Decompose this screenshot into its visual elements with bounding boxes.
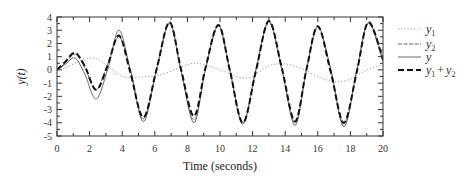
plot-frame <box>57 17 383 136</box>
y-tick-label: 0 <box>47 64 52 75</box>
y-tick-label: -1 <box>44 78 52 89</box>
chart: 02468101214161820 43210-1-2-3-4-5 Time (… <box>0 0 471 181</box>
series-y2 <box>57 22 383 124</box>
x-axis-title: Time (seconds) <box>183 159 257 173</box>
legend-label: y <box>425 50 432 64</box>
x-tick-label: 12 <box>248 143 258 154</box>
series-y1-plus-y2 <box>57 21 383 123</box>
legend-item: y1+y2 <box>398 63 455 79</box>
x-tick-label: 18 <box>345 143 355 154</box>
y-tick-label: -5 <box>44 131 52 142</box>
x-tick-label: 8 <box>185 143 190 154</box>
legend: y1y2yy1+y2 <box>398 22 455 79</box>
y-tick-label: -3 <box>44 104 52 115</box>
y-tick-labels: 43210-1-2-3-4-5 <box>44 12 52 142</box>
y-tick-label: 2 <box>47 38 52 49</box>
legend-item: y1 <box>398 22 435 38</box>
x-tick-labels: 02468101214161820 <box>55 143 389 154</box>
series-layer <box>57 21 383 127</box>
x-tick-label: 4 <box>120 143 125 154</box>
y-axis-title: y(t) <box>14 68 28 86</box>
legend-label: y1+y2 <box>425 63 455 79</box>
x-tick-label: 16 <box>313 143 323 154</box>
series-y <box>57 21 383 127</box>
y-tick-label: -2 <box>44 91 52 102</box>
legend-label: y1 <box>425 22 435 38</box>
x-tick-label: 10 <box>215 143 225 154</box>
x-tick-label: 20 <box>378 143 388 154</box>
y-tick-label: -4 <box>44 117 52 128</box>
x-tick-label: 14 <box>280 143 290 154</box>
x-tick-label: 6 <box>152 143 157 154</box>
legend-item: y <box>398 50 432 64</box>
y-tick-label: 3 <box>47 25 52 36</box>
x-tick-label: 2 <box>87 143 92 154</box>
axis-ticks <box>57 17 383 136</box>
y-tick-label: 1 <box>47 51 52 62</box>
y-tick-label: 4 <box>47 12 52 23</box>
x-tick-label: 0 <box>55 143 60 154</box>
